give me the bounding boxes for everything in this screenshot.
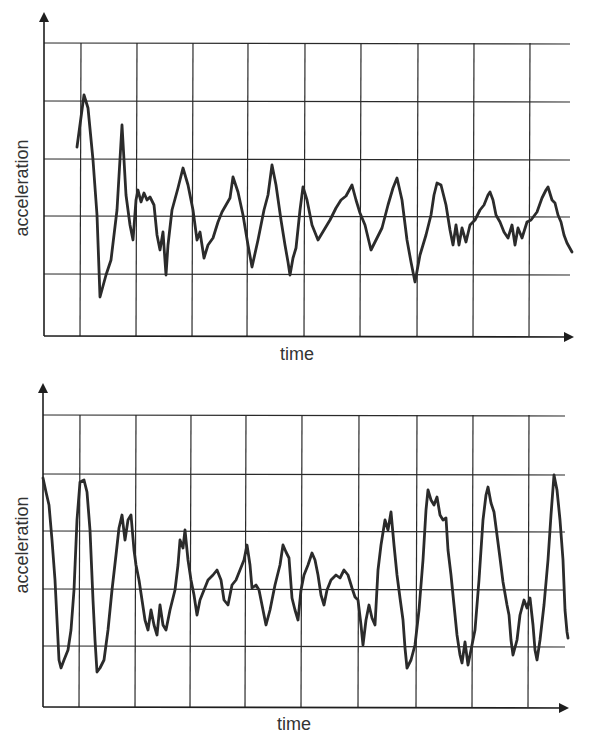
gridline-vertical [528,415,529,707]
top-chart-line [77,95,572,297]
gridline-vertical [190,415,191,707]
gridline-horizontal [43,589,565,590]
gridline-horizontal [43,646,565,647]
gridline-horizontal [44,274,570,275]
acceleration-time-charts: time acceleration time acceleration [0,0,591,753]
top-chart-ylabel: acceleration [12,139,32,236]
gridline-vertical [529,43,530,336]
gridline-vertical [416,415,417,707]
gridline-horizontal [43,474,565,475]
gridline-vertical [79,415,80,707]
top-chart-axes [44,14,572,337]
gridline-horizontal [43,531,565,532]
gridline-vertical [247,43,248,336]
bottom-chart-line [43,475,568,672]
gridline-horizontal [44,216,570,217]
bottom-chart-xlabel: time [277,714,311,734]
bottom-chart-axes [43,385,567,708]
gridline-vertical [417,43,418,336]
gridline-vertical [245,415,246,707]
gridline-horizontal [44,43,570,44]
top-chart-xlabel: time [280,344,314,364]
gridline-horizontal [44,101,570,102]
gridline-vertical [358,415,359,707]
gridline-vertical [301,415,302,707]
gridline-vertical [360,43,361,336]
bottom-chart: time acceleration [12,385,568,734]
gridline-horizontal [43,415,565,416]
top-chart: time acceleration [12,14,572,364]
bottom-chart-ylabel: acceleration [12,496,32,593]
gridline-vertical [80,43,81,336]
x-axis-arrow [44,336,572,337]
gridline-vertical [472,415,473,707]
bottom-chart-grid [43,415,565,707]
top-chart-grid [44,43,570,336]
gridline-vertical [473,43,474,336]
gridline-vertical [192,43,193,336]
x-axis-arrow [43,707,567,708]
